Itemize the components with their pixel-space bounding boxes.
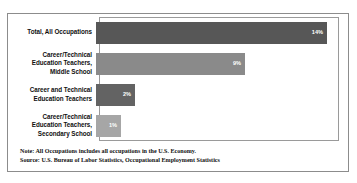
chart-row: Career/Technical Education Teachers, Mid… <box>8 48 348 79</box>
bar-track: 1% <box>96 110 348 141</box>
footnote-source: Source: U.S. Bureau of Labor Statistics,… <box>20 156 336 165</box>
category-label-line: Career and Technical <box>30 86 92 93</box>
chart-row: Total, All Occupations 14% <box>8 17 348 48</box>
category-label-line: Career/Technical <box>43 113 92 120</box>
category-label: Career/Technical Education Teachers, Sec… <box>8 113 96 138</box>
chart-figure: Total, All Occupations 14% Career/Techni… <box>0 0 357 183</box>
figure-title-cropped <box>0 0 357 11</box>
bar-value-label: 2% <box>123 92 135 98</box>
footnote-block: Note: All Occupations includes all occup… <box>20 147 336 164</box>
category-label-line: Secondary School <box>38 130 92 137</box>
category-label-line: Education Teachers, <box>32 121 92 128</box>
chart-plot-region: Total, All Occupations 14% Career/Techni… <box>8 14 348 140</box>
figure-frame: Total, All Occupations 14% Career/Techni… <box>7 13 349 172</box>
bar-value-label: 9% <box>233 61 245 67</box>
footnote-note: Note: All Occupations includes all occup… <box>20 147 336 156</box>
bar-track: 14% <box>96 17 348 48</box>
bar-track: 9% <box>96 48 348 79</box>
chart-row: Career and Technical Education Teachers … <box>8 79 348 110</box>
bar-cte-teachers-middle-school: 9% <box>96 53 245 75</box>
bar-track: 2% <box>96 79 348 110</box>
bar-value-label: 1% <box>109 123 121 129</box>
bar-total-all-occupations: 14% <box>96 22 327 44</box>
bar-cte-teachers-secondary-school: 1% <box>96 115 121 137</box>
category-label: Career/Technical Education Teachers, Mid… <box>8 51 96 76</box>
category-label-line: Career/Technical <box>43 51 92 58</box>
category-label-line: Middle School <box>50 68 92 75</box>
chart-row: Career/Technical Education Teachers, Sec… <box>8 110 348 141</box>
category-label-line: Education Teachers, <box>32 59 92 66</box>
bar-value-label: 14% <box>312 30 327 36</box>
category-label-line: Total, All Occupations <box>27 28 92 35</box>
category-label-line: Education Teachers <box>34 95 92 102</box>
category-label: Career and Technical Education Teachers <box>8 86 96 102</box>
bar-career-and-technical-education-teachers: 2% <box>96 84 135 106</box>
category-label: Total, All Occupations <box>8 28 96 36</box>
